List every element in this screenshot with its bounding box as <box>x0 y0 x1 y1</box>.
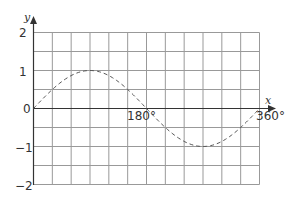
y-tick-2: 2 <box>19 26 27 40</box>
sine-chart: y x 2 1 0 −1 −2 180° 360° <box>0 0 293 201</box>
y-tick-minus-2: −2 <box>15 179 33 193</box>
x-axis-label: x <box>265 94 272 107</box>
y-tick-0: 0 <box>23 102 31 116</box>
x-tick-180: 180° <box>127 109 156 123</box>
y-axis-label: y <box>23 11 31 24</box>
y-axis-arrow-icon <box>30 16 37 24</box>
y-tick-1: 1 <box>19 65 27 79</box>
y-tick-minus-1: −1 <box>15 141 33 155</box>
x-tick-360: 360° <box>256 109 285 123</box>
